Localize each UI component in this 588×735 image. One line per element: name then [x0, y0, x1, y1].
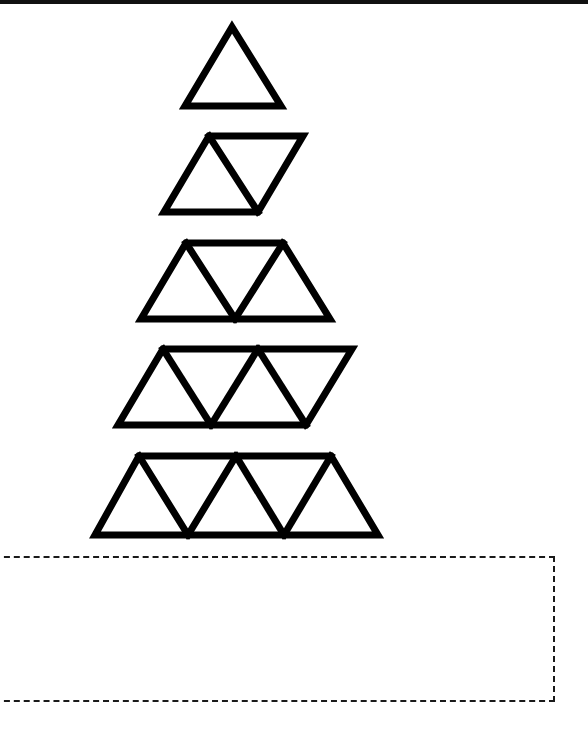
figure-4-edge-2 [211, 349, 258, 425]
figure-3-outline [141, 243, 330, 319]
figure-4-edge-1 [163, 349, 211, 425]
figure-5 [95, 456, 378, 535]
figure-2 [164, 136, 303, 212]
figure-5-edge-4 [284, 456, 331, 535]
figure-4-edge-3 [258, 349, 306, 425]
figure-1-outline [185, 27, 281, 106]
figure-1 [185, 27, 281, 106]
figure-3-edge-2 [235, 243, 283, 319]
figure-4 [118, 349, 352, 425]
figure-5-edge-3 [236, 456, 284, 535]
figure-3 [141, 243, 330, 319]
figure-3-edge-1 [186, 243, 235, 319]
answer-box[interactable] [0, 556, 555, 702]
figure-5-edge-2 [188, 456, 236, 535]
figure-5-outline [95, 456, 378, 535]
figure-2-edge-1 [209, 136, 258, 212]
figure-5-edge-1 [139, 456, 188, 535]
